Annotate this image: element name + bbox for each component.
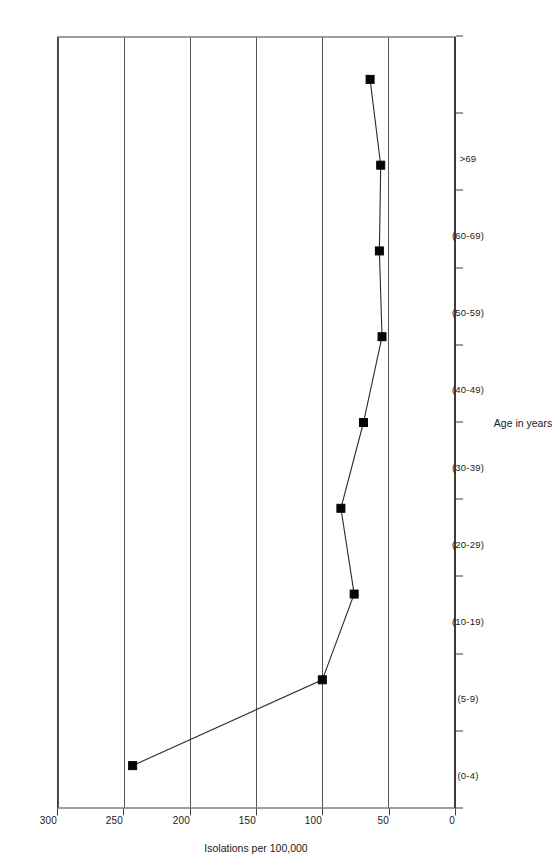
category-tick-label: (5-9) <box>457 692 478 703</box>
category-tick-label: (60-69) <box>452 229 484 240</box>
category-tick <box>456 421 463 422</box>
data-point-marker <box>350 590 358 598</box>
value-tick-label: 150 <box>239 815 256 826</box>
category-tick <box>456 653 463 654</box>
value-tick-label: 250 <box>106 815 123 826</box>
value-tick <box>123 808 124 815</box>
category-tick-label: (20-29) <box>452 538 484 549</box>
category-tick-label: (50-59) <box>452 306 484 317</box>
series-line <box>133 79 382 765</box>
value-tick <box>322 808 323 815</box>
category-tick <box>456 189 463 190</box>
value-tick <box>455 808 456 815</box>
category-axis-title-text: Age in years <box>494 416 552 428</box>
category-tick <box>456 807 463 808</box>
data-point-marker <box>337 504 345 512</box>
value-tick-label: 50 <box>377 815 389 826</box>
data-point-marker <box>377 161 385 169</box>
data-point-marker <box>366 75 374 83</box>
category-tick <box>456 267 463 268</box>
value-tick <box>57 808 58 815</box>
value-axis-title-text: Isolations per 100,000 <box>204 841 307 853</box>
category-tick <box>456 498 463 499</box>
value-tick-label: 200 <box>172 815 189 826</box>
category-tick <box>456 35 463 36</box>
category-tick-label: (40-49) <box>452 383 484 394</box>
category-tick <box>456 112 463 113</box>
category-tick <box>456 730 463 731</box>
value-tick-label: 100 <box>305 815 322 826</box>
category-tick-label: >69 <box>460 152 477 163</box>
value-tick-label: 0 <box>449 815 455 826</box>
category-tick-label: (10-19) <box>452 615 484 626</box>
data-point-marker <box>378 332 386 340</box>
category-axis: (0-4) (5-9) (10-19) (20-29) (30-39) (40-… <box>455 36 456 808</box>
value-tick-label: 300 <box>40 815 57 826</box>
category-tick <box>456 575 463 576</box>
data-series <box>57 36 455 808</box>
value-tick <box>256 808 257 815</box>
value-tick <box>389 808 390 815</box>
data-point-marker <box>359 418 367 426</box>
category-tick <box>456 344 463 345</box>
category-tick-label: (30-39) <box>452 461 484 472</box>
data-point-marker <box>318 675 326 683</box>
series-markers <box>129 75 386 769</box>
category-tick-label: (0-4) <box>457 769 478 780</box>
data-point-marker <box>375 246 383 254</box>
data-point-marker <box>129 761 137 769</box>
